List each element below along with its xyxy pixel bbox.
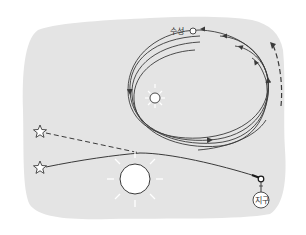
background-panel <box>23 17 286 220</box>
mercury-planet <box>190 28 196 34</box>
earth-label: 지구 <box>255 196 269 205</box>
relativity-diagram: 수성 <box>0 0 306 235</box>
mercury-label: 수성 <box>170 27 184 36</box>
